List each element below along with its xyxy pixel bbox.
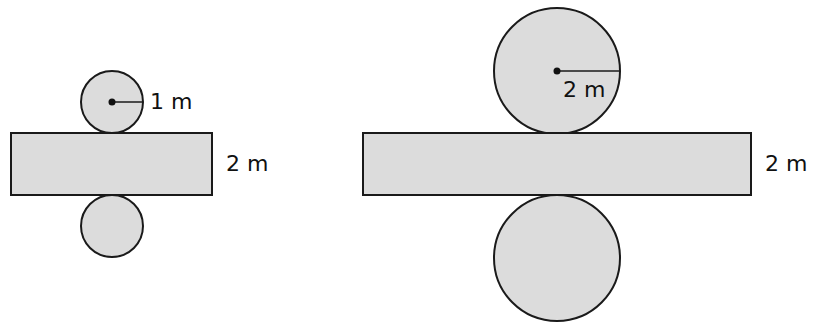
right-cylinder-net — [363, 8, 751, 321]
left-rectangle — [11, 133, 212, 195]
left-radius-label: 1 m — [150, 91, 192, 113]
right-height-label: 2 m — [765, 153, 807, 175]
right-rectangle — [363, 133, 751, 195]
left-bottom-circle — [81, 195, 143, 257]
left-height-label: 2 m — [226, 153, 268, 175]
right-radius-label: 2 m — [563, 79, 605, 101]
left-center-dot — [109, 99, 116, 106]
right-bottom-circle — [494, 195, 620, 321]
diagram-canvas — [0, 0, 813, 323]
right-center-dot — [554, 68, 561, 75]
